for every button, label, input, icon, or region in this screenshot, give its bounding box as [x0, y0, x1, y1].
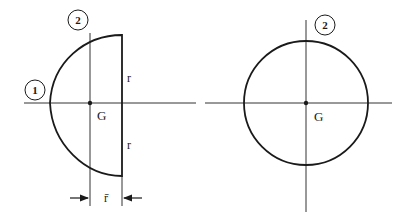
centroid-dot: [88, 101, 92, 105]
axis-2-label: 2: [75, 14, 81, 26]
axis-1-label: 1: [32, 84, 38, 96]
radius-label-bottom: r: [127, 138, 131, 152]
centroid-offset-label: r̄: [104, 191, 109, 205]
axis-2-label: 2: [322, 19, 328, 31]
centroid-label: G: [314, 109, 323, 124]
diagram-canvas: G r r 1 2 r̄ G 2: [0, 0, 409, 219]
semicircle-figure: G r r 1 2 r̄: [24, 10, 196, 206]
circle-figure: G 2: [205, 15, 392, 212]
radius-label-top: r: [127, 71, 131, 85]
centroid-label: G: [97, 108, 106, 123]
centroid-dot: [304, 101, 308, 105]
semicircle-shape: [50, 35, 122, 176]
